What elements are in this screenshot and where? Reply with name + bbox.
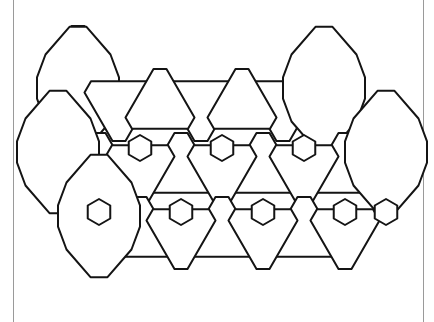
tile-truncated-triangle-up xyxy=(208,69,277,129)
tile-small-hexagon xyxy=(170,199,193,225)
tile-truncated-triangle-up xyxy=(126,69,195,129)
tile-small-hexagon xyxy=(375,199,398,225)
tessellation-canvas xyxy=(0,0,434,322)
tile-small-hexagon xyxy=(211,135,234,161)
tile-small-hexagon xyxy=(334,199,357,225)
tessellation-svg xyxy=(0,0,434,322)
tile-small-hexagon xyxy=(88,199,111,225)
tile-small-hexagon xyxy=(252,199,275,225)
tile-small-hexagon xyxy=(129,135,152,161)
tile-small-hexagon xyxy=(293,135,316,161)
screenshot-root xyxy=(0,0,434,322)
